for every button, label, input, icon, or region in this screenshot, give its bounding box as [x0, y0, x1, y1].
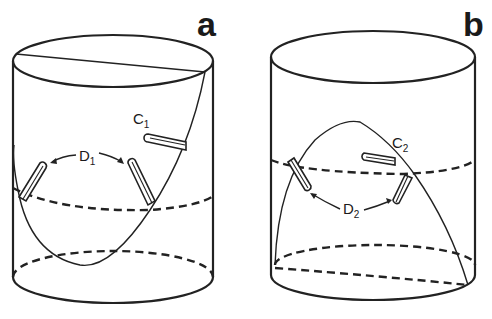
cylinder-a-bottom-back [13, 251, 213, 277]
cylinder-b-bottom-front [271, 275, 475, 300]
panel-b: b C2 D2 [271, 5, 484, 300]
arrowhead-d1-left [50, 158, 57, 164]
label-d2: D2 [343, 200, 360, 220]
cylinder-a-mid-ring [13, 188, 213, 210]
tube-d2-left [288, 158, 311, 191]
cylinder-b-bottom-chord [275, 268, 468, 285]
tube-c2 [362, 153, 395, 165]
arrow-d2-left [312, 194, 340, 209]
cylinder-a-bottom-front [13, 277, 213, 303]
cylinder-b-bottom-back [275, 245, 475, 265]
plane-a-top-chord [16, 54, 205, 72]
tube-d1-right [128, 159, 155, 205]
tube-d1-left [19, 162, 46, 201]
plane-b-intersection-curve [275, 121, 468, 285]
arrowhead-d2-right [386, 198, 392, 204]
arrow-d2-right [364, 201, 390, 210]
panel-a-letter: a [197, 5, 217, 43]
cylinder-diagram-figure: a C1 D1 [0, 0, 492, 319]
panel-a: a C1 D1 [13, 5, 217, 303]
tube-d2-right [393, 175, 412, 204]
label-c1: C1 [133, 110, 150, 130]
cylinder-b-top-ellipse [271, 31, 475, 83]
tube-c1 [144, 134, 186, 150]
cylinder-a-top-ellipse [13, 35, 213, 87]
panel-b-letter: b [463, 5, 484, 43]
label-d1: D1 [79, 147, 96, 167]
